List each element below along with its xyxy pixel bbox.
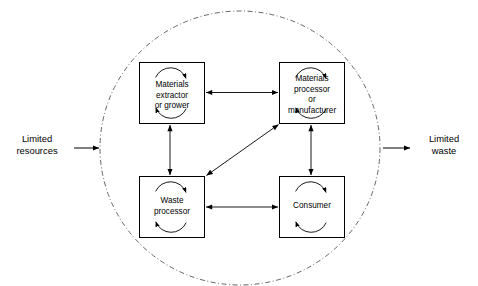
label-limited-waste: Limited waste: [414, 133, 474, 157]
system-boundary-circle: [100, 11, 380, 285]
node-box-consumer[interactable]: [280, 177, 345, 238]
node-box-materials-extractor-or-grower[interactable]: [140, 63, 205, 124]
node-box-materials-processor-or-manufacturer[interactable]: [280, 63, 345, 124]
label-limited-resources: Limited resources: [4, 133, 70, 157]
circular-economy-diagram: [0, 0, 478, 286]
diagram-canvas: Materials extractor or grower Materials …: [0, 0, 478, 286]
connection-waste-processor-to-materials-processor[interactable]: [207, 125, 279, 176]
node-box-waste-processor[interactable]: [140, 177, 205, 238]
